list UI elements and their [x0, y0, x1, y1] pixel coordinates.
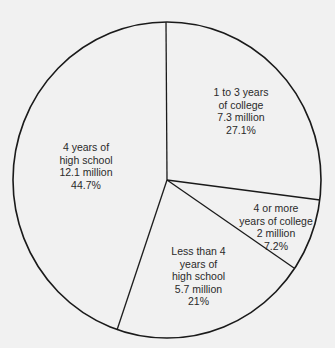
- divider-bottom: [117, 180, 167, 330]
- divider-right: [167, 180, 320, 200]
- divider-top: [166, 22, 167, 180]
- slice-label-less-than-4-years-hs: Less than 4 years of high school 5.7 mil…: [166, 245, 231, 308]
- slice-label-4-plus-years-college: 4 or more years of college 2 million 7.2…: [236, 202, 316, 252]
- slice-label-1-3-years-college: 1 to 3 years of college 7.3 million 27.1…: [196, 86, 286, 136]
- slice-label-4-years-hs: 4 years of high school 12.1 million 44.7…: [46, 141, 126, 191]
